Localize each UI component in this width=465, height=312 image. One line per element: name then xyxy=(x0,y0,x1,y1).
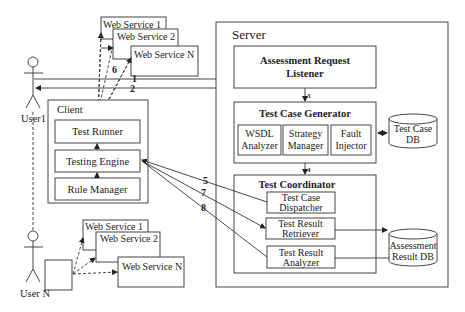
call-wsn-bottom xyxy=(73,272,117,274)
step-4-label: 4 xyxy=(307,166,311,174)
userN-client-box xyxy=(45,260,72,290)
step-3-label: 3 xyxy=(307,92,311,100)
step-6-label: 6 xyxy=(112,64,117,75)
web-services-bottom: Web Service 1 Web Service 2 Web Service … xyxy=(83,220,184,287)
web-service-1-top-label: Web Service 1 xyxy=(103,19,161,30)
web-service-2-top-label: Web Service 2 xyxy=(117,31,175,42)
dispatcher-line2: Dispatcher xyxy=(279,202,323,213)
strategy-manager-line2: Manager xyxy=(288,140,324,151)
retriever-line2: Retriever xyxy=(282,228,320,239)
web-service-1-bottom-label: Web Service 1 xyxy=(85,221,143,232)
analyzer-line2: Analyzer xyxy=(283,257,320,268)
listener-label-line2: Listener xyxy=(286,68,324,79)
test-case-db-line2: DB xyxy=(406,134,420,145)
strategy-manager-line1: Strategy xyxy=(289,128,322,139)
generator-title: Test Case Generator xyxy=(259,108,351,119)
wsdl-analyzer-line1: WSDL xyxy=(245,128,273,139)
fault-injector-line2: Injector xyxy=(335,140,367,151)
coordinator-title: Test Coordinator xyxy=(259,179,336,190)
test-runner-label: Test Runner xyxy=(72,126,123,137)
web-service-n-top-label: Web Service N xyxy=(134,49,194,60)
architecture-diagram: User1 User N Web Service 1 Web Service 2… xyxy=(0,0,465,312)
server-title: Server xyxy=(232,27,267,42)
step-5-label: 5 xyxy=(203,175,208,186)
result-db-line1: Assessment xyxy=(389,240,436,251)
call-ws1-bottom xyxy=(73,238,83,274)
userN-actor-icon xyxy=(24,231,43,282)
user1-label: User1 xyxy=(21,113,46,124)
user1-actor-icon xyxy=(24,57,43,108)
step-7-label: 7 xyxy=(201,187,206,198)
web-service-n-bottom-label: Web Service N xyxy=(122,261,182,272)
web-service-2-bottom-label: Web Service 2 xyxy=(100,233,158,244)
client-title: Client xyxy=(57,104,83,115)
wsdl-analyzer-line2: Analyzer xyxy=(241,140,278,151)
testing-engine-label: Testing Engine xyxy=(66,156,129,167)
result-db-line2: Result DB xyxy=(392,251,434,262)
fault-injector-line1: Fault xyxy=(341,128,362,139)
step-8-label: 8 xyxy=(201,202,206,213)
test-case-db-line1: Test Case xyxy=(394,123,433,134)
listener-label-line1: Assessment Request xyxy=(260,55,351,66)
step-2-label: 2 xyxy=(130,83,135,94)
rule-manager-label: Rule Manager xyxy=(68,184,128,195)
assessment-request-listener-box xyxy=(234,46,376,88)
call-ws2-bottom xyxy=(73,258,95,274)
